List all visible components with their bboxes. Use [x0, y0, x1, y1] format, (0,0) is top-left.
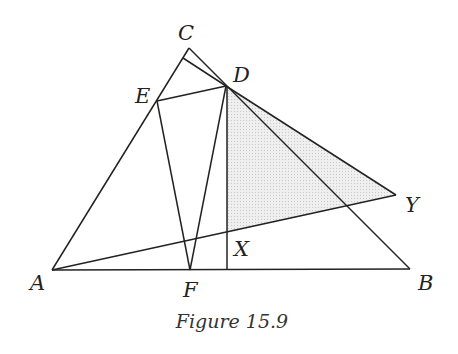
segment-ef [157, 101, 190, 270]
label-b: B [417, 271, 433, 295]
diagram-canvas: A B C D E F X Y Figure 15.9 [0, 0, 458, 354]
label-e: E [134, 84, 150, 108]
label-d: D [232, 63, 250, 87]
segment-df [190, 86, 226, 270]
label-f: F [182, 278, 199, 302]
label-c: C [178, 21, 194, 45]
label-y: Y [405, 193, 421, 217]
shaded-triangle-dxy [226, 86, 396, 233]
label-x: X [232, 237, 250, 261]
figure-caption: Figure 15.9 [175, 310, 288, 332]
geometry-figure: A B C D E F X Y Figure 15.9 [0, 0, 458, 354]
segment-ed [157, 86, 226, 101]
side-cb [189, 48, 410, 269]
side-ab [52, 269, 410, 270]
segment-ay [52, 195, 396, 270]
segment-to-d [183, 58, 226, 86]
label-a: A [28, 271, 45, 295]
